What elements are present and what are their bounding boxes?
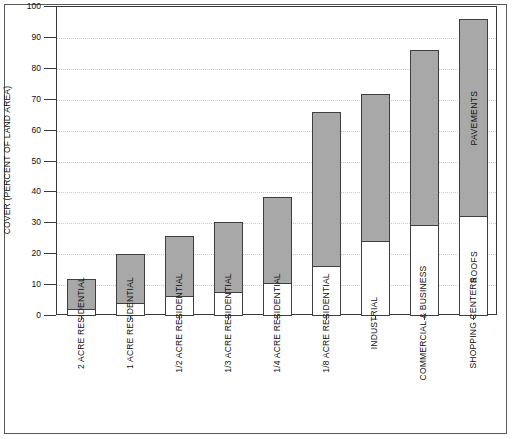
x-axis-label-text: INDUSTRIAL — [370, 297, 380, 350]
x-axis-label-2: 1 ACRE RESIDENTIAL — [105, 318, 154, 434]
y-axis-tick-label: 70 — [14, 95, 41, 104]
x-axis-label-5: 1/4 ACRE RESIDENTIAL — [252, 318, 301, 434]
x-axis-label-4: 1/3 ACRE RESIDENTIAL — [203, 318, 252, 434]
y-axis-tick-label: 90 — [14, 33, 41, 42]
x-axis-label-text: 2 ACRE RESIDENTIAL — [76, 277, 86, 369]
segment-label-pavements: PAVEMENTS — [469, 91, 479, 146]
x-axis-label-9: SHOPPING CENTERS — [448, 318, 497, 434]
y-axis-tick — [44, 161, 56, 162]
y-axis-title: COVER (PERCENT OF LAND AREA) — [0, 0, 14, 320]
x-axis-label-text: 1/2 ACRE RESIDENTIAL — [174, 273, 184, 372]
y-axis-tick-label: 60 — [14, 126, 41, 135]
bar-9[interactable]: PAVEMENTSROOFS — [459, 19, 488, 316]
y-axis-tick-label: 0 — [14, 311, 41, 320]
y-axis-tick — [44, 68, 56, 69]
x-axis-label-text: SHOPPING CENTERS — [468, 277, 478, 368]
x-axis-label-7: INDUSTRIAL — [350, 318, 399, 434]
y-axis-tick — [44, 99, 56, 100]
x-axis-tick — [130, 315, 131, 320]
y-axis-tick — [44, 130, 56, 131]
y-axis-tick — [44, 284, 56, 285]
y-axis-tick-label: 20 — [14, 249, 41, 258]
y-axis-tick-label: 10 — [14, 280, 41, 289]
y-axis-tick — [44, 37, 56, 38]
x-axis-tick — [375, 315, 376, 320]
x-axis-label-6: 1/8 ACRE RESIDENTIAL — [301, 318, 350, 434]
y-axis-tick-label: 50 — [14, 157, 41, 166]
y-axis-tick-label: 30 — [14, 218, 41, 227]
x-axis-label-text: 1/8 ACRE RESIDENTIAL — [321, 273, 331, 372]
x-axis-label-text: 1/4 ACRE RESIDENTIAL — [272, 273, 282, 372]
y-axis-tick — [44, 253, 56, 254]
y-axis-tick-label: 100 — [14, 2, 41, 11]
y-axis-title-label: COVER (PERCENT OF LAND AREA) — [2, 86, 12, 235]
x-axis-label-text: 1 ACRE RESIDENTIAL — [125, 277, 135, 369]
x-axis-label-3: 1/2 ACRE RESIDENTIAL — [154, 318, 203, 434]
y-axis-tick — [44, 6, 56, 7]
x-axis-label-1: 2 ACRE RESIDENTIAL — [56, 318, 105, 434]
x-axis-label-text: 1/3 ACRE RESIDENTIAL — [223, 273, 233, 372]
plot-area: PAVEMENTSROOFS — [56, 6, 497, 315]
x-axis-tick — [326, 315, 327, 320]
bar-7[interactable] — [361, 94, 390, 316]
x-axis-tick — [473, 315, 474, 320]
x-axis-label-8: COMMERCIAL & BUSINESS — [399, 318, 448, 434]
y-axis-tick-label: 80 — [14, 64, 41, 73]
y-axis-tick — [44, 222, 56, 223]
y-axis-tick-label: 40 — [14, 187, 41, 196]
x-axis-labels: 2 ACRE RESIDENTIAL1 ACRE RESIDENTIAL1/2 … — [56, 318, 497, 434]
x-axis-label-text: COMMERCIAL & BUSINESS — [419, 266, 429, 381]
gridline — [57, 38, 496, 39]
x-axis-tick — [228, 315, 229, 320]
y-axis-tick — [44, 191, 56, 192]
y-axis-tick — [44, 315, 56, 316]
x-axis-tick — [81, 315, 82, 320]
x-axis-tick — [179, 315, 180, 320]
x-axis-tick — [277, 315, 278, 320]
x-axis-tick — [424, 315, 425, 320]
